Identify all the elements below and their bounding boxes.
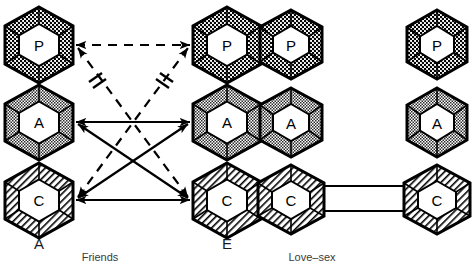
- hexagon-label-child: C: [34, 192, 45, 209]
- hexagon-label-parent: P: [432, 37, 442, 54]
- person-label-left: A: [34, 235, 44, 252]
- hexagon-label-adult: A: [286, 115, 296, 132]
- hexagon-label-child: C: [222, 192, 233, 209]
- hexagon-label-parent: P: [34, 37, 44, 54]
- figure-root: P A: [0, 0, 474, 264]
- friends-left-column: P A: [5, 7, 73, 252]
- hexagon-love-left-adult: A: [260, 88, 322, 157]
- hexagon-label-parent: P: [286, 37, 296, 54]
- friends-right-column: P A: [193, 7, 261, 252]
- hexagon-love-left-parent: P: [260, 10, 322, 79]
- ego-state-diagram: P A: [0, 0, 474, 264]
- hexagon-label-child: C: [432, 192, 443, 209]
- hexagon-label-adult: A: [34, 114, 44, 131]
- hexagon-love-right-adult: A: [407, 88, 467, 157]
- panel-caption-love-sex: Love–sex: [288, 251, 336, 263]
- hexagon-love-right-parent: P: [407, 10, 467, 79]
- love-left-column: P A C: [258, 10, 324, 234]
- panel-caption-friends: Friends: [82, 251, 119, 263]
- hexagon-label-adult: A: [222, 114, 232, 131]
- person-label-right: E: [222, 235, 232, 252]
- hexagon-label-child: C: [286, 192, 297, 209]
- love-right-column: P A C: [404, 10, 470, 234]
- hexagon-label-parent: P: [222, 37, 232, 54]
- hexagon-label-adult: A: [432, 115, 442, 132]
